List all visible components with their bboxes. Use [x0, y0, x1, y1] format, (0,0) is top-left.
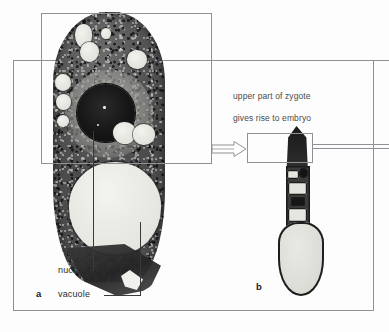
caption-line-1: upper part of zygote	[233, 91, 311, 101]
frame-line-panel-b-right-upper	[313, 144, 389, 145]
panel-b-callout-box	[247, 133, 313, 163]
callout-caption: upper part of zygote gives rise to embry…	[233, 80, 311, 124]
frame-line-panel-b-right-lower	[313, 148, 389, 149]
frame-line-top-right	[212, 60, 389, 61]
suspensor-cell-light	[288, 182, 307, 195]
panel-a-callout-box	[41, 13, 212, 164]
leader-line-nucleus	[93, 131, 94, 271]
figure-root: nucleus vacuole a upper part of zygote g…	[0, 0, 389, 332]
label-nucleus: nucleus	[58, 265, 90, 275]
leader-line-vacuole-horizontal	[104, 295, 141, 296]
suspensor-cell-dark	[299, 168, 308, 178]
panel-label-b: b	[256, 281, 262, 292]
large-central-vacuole	[69, 162, 161, 254]
leader-line-vacuole-vertical	[140, 222, 141, 296]
suspensor-cell-dark	[291, 197, 305, 206]
caption-line-2: gives rise to embryo	[233, 113, 311, 123]
label-vacuole: vacuole	[58, 289, 90, 299]
basal-cell-bulb	[278, 222, 324, 296]
suspensor-cell-light	[288, 208, 307, 222]
panel-label-a: a	[36, 288, 41, 299]
suspensor-cell-light	[287, 170, 299, 179]
suspensor-stalk	[286, 166, 310, 228]
open-arrow	[212, 141, 248, 157]
